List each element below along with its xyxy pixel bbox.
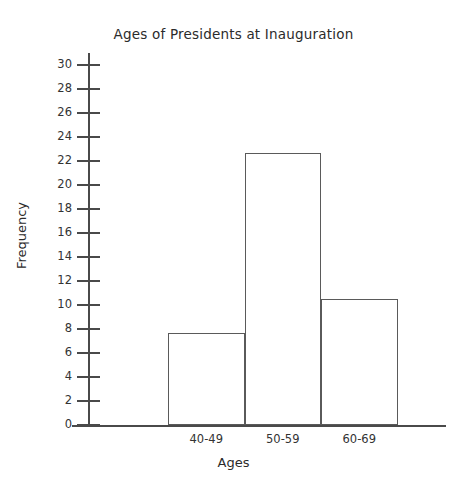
y-tick-28 xyxy=(77,88,100,89)
y-tick-16 xyxy=(77,232,100,233)
y-tick-2 xyxy=(77,400,100,401)
y-tick-10 xyxy=(77,304,100,305)
x-tick-label-50-59: 50-59 xyxy=(243,432,323,446)
y-tick-22 xyxy=(77,160,100,161)
y-tick-label-30: 30 xyxy=(42,59,72,71)
y-tick-label-0: 0 xyxy=(42,419,72,431)
y-tick-label-6: 6 xyxy=(42,347,72,359)
y-tick-30 xyxy=(77,64,100,65)
y-axis-line xyxy=(88,53,90,426)
x-tick-label-40-49: 40-49 xyxy=(166,432,246,446)
x-axis-title: Ages xyxy=(0,455,467,470)
y-tick-label-26: 26 xyxy=(42,107,72,119)
y-tick-12 xyxy=(77,280,100,281)
y-tick-label-16: 16 xyxy=(42,227,72,239)
y-tick-label-28: 28 xyxy=(42,83,72,95)
y-tick-14 xyxy=(77,256,100,257)
y-tick-8 xyxy=(77,328,100,329)
y-tick-label-14: 14 xyxy=(42,251,72,263)
y-tick-24 xyxy=(77,136,100,137)
y-tick-18 xyxy=(77,208,100,209)
plot-area: 024681012141618202224262830 40-4950-5960… xyxy=(0,0,467,499)
bar-60-69 xyxy=(321,299,398,425)
y-tick-26 xyxy=(77,112,100,113)
y-tick-label-18: 18 xyxy=(42,203,72,215)
y-tick-label-20: 20 xyxy=(42,179,72,191)
y-tick-label-4: 4 xyxy=(42,371,72,383)
bar-50-59 xyxy=(245,153,322,425)
chart-screenshot: Ages of Presidents at Inauguration 02468… xyxy=(0,0,467,499)
y-tick-label-8: 8 xyxy=(42,323,72,335)
y-tick-label-10: 10 xyxy=(42,299,72,311)
x-axis-line xyxy=(72,425,446,427)
y-tick-label-12: 12 xyxy=(42,275,72,287)
y-tick-0 xyxy=(77,424,100,425)
y-tick-4 xyxy=(77,376,100,377)
y-axis-title: Frequency xyxy=(14,186,29,286)
y-tick-20 xyxy=(77,184,100,185)
y-tick-6 xyxy=(77,352,100,353)
bar-40-49 xyxy=(168,333,245,425)
y-tick-label-22: 22 xyxy=(42,155,72,167)
y-tick-label-24: 24 xyxy=(42,131,72,143)
x-tick-label-60-69: 60-69 xyxy=(319,432,399,446)
y-tick-label-2: 2 xyxy=(42,395,72,407)
